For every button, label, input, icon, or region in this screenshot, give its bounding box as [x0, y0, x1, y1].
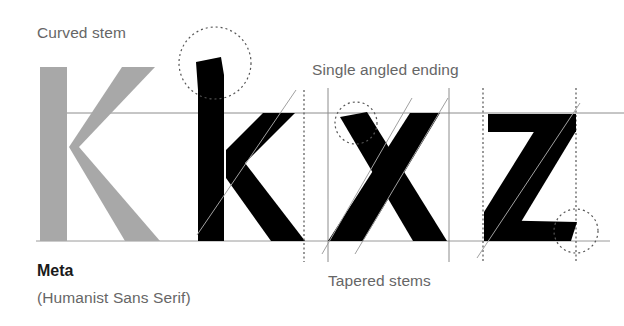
letterform-diagram: [0, 0, 624, 326]
annotation-tapered-stems: Tapered stems: [328, 272, 431, 290]
annotation-curved-stem: Curved stem: [37, 24, 126, 42]
glyph-K-gray: [40, 67, 160, 241]
glyph-x: [328, 112, 447, 241]
typeface-classification: (Humanist Sans Serif): [37, 289, 191, 307]
annotation-single-angled-ending: Single angled ending: [312, 61, 459, 79]
typeface-name: Meta: [37, 262, 73, 280]
